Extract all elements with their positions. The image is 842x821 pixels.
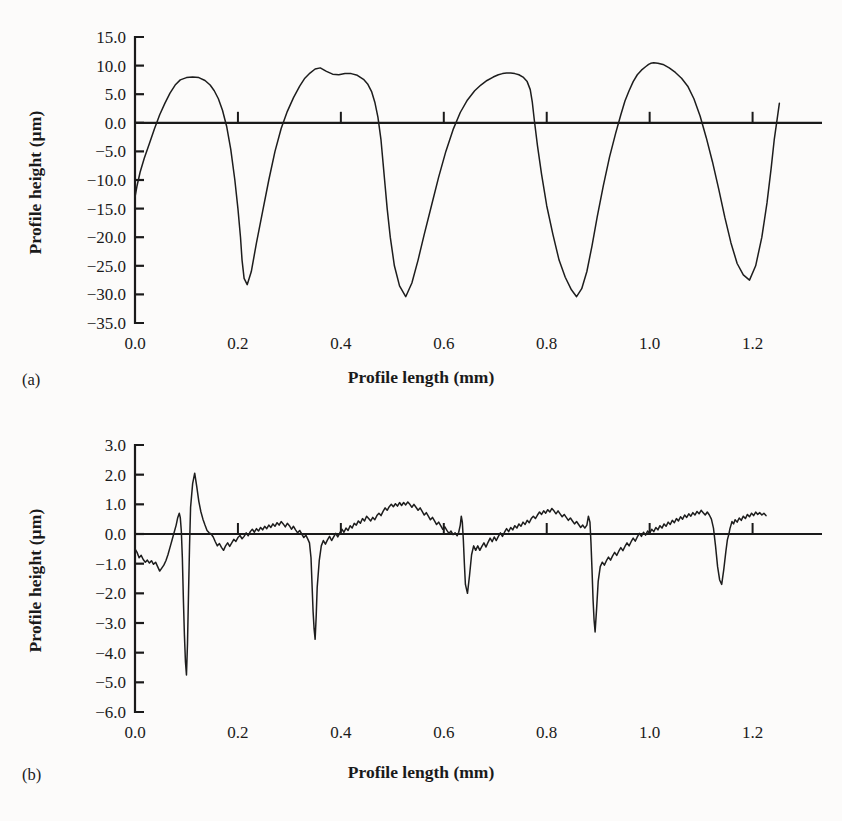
y-tick-label-7: −4.0 [95,644,126,663]
y-tick-label-6: −15.0 [87,200,126,219]
y-tick-label-2: 5.0 [105,85,126,104]
x-tick-label-3: 0.6 [433,334,454,353]
y-tick-label-1: 10.0 [96,57,126,76]
y-tick-labels-b: 3.02.01.00.0−1.0−2.0−3.0−4.0−5.0−6.0 [95,436,126,722]
x-tick-label-0: 0.0 [124,334,145,353]
y-tick-label-4: −1.0 [95,555,126,574]
y-tick-label-3: 0.0 [105,525,126,544]
chart-b-svg: 3.02.01.00.0−1.0−2.0−3.0−4.0−5.0−6.0 0.0… [0,410,842,740]
plot-area-b: 3.02.01.00.0−1.0−2.0−3.0−4.0−5.0−6.0 0.0… [0,410,842,740]
y-tick-label-5: −2.0 [95,584,126,603]
y-tick-label-8: −25.0 [87,257,126,276]
x-tick-label-4: 0.8 [536,723,557,742]
x-tick-label-5: 1.0 [639,334,660,353]
panel-b: Profile height (µm) 3.02.01.00.0−1.0−2.0… [0,410,842,821]
y-tick-label-9: −6.0 [95,703,126,722]
y-tick-label-8: −5.0 [95,673,126,692]
x-tick-label-0: 0.0 [124,723,145,742]
y-tick-label-10: −35.0 [87,314,126,333]
x-tick-label-2: 0.4 [330,723,352,742]
y-tick-label-5: −10.0 [87,171,126,190]
profile-curve-b [135,473,766,675]
plot-area-a: 15.010.05.00.0−5.0−10.0−15.0−20.0−25.0−3… [0,0,842,345]
panel-a: Profile height (µm) 15.010.05.00.0−5.0−1… [0,0,842,410]
x-tick-label-6: 1.2 [742,723,763,742]
y-tick-label-0: 15.0 [96,28,126,47]
x-tick-marks-a [238,112,753,123]
y-tick-label-1: 2.0 [105,466,126,485]
x-tick-label-2: 0.4 [330,334,352,353]
y-tick-label-2: 1.0 [105,495,126,514]
y-tick-label-6: −3.0 [95,614,126,633]
y-tick-marks-a [135,66,144,295]
x-axis-label-a: Profile length (mm) [0,367,842,388]
chart-a-svg: 15.010.05.00.0−5.0−10.0−15.0−20.0−25.0−3… [0,0,842,345]
x-tick-labels-a: 0.00.20.40.60.81.01.2 [124,334,763,353]
x-tick-label-5: 1.0 [639,723,660,742]
y-axis-spine-b [135,445,144,712]
x-tick-label-1: 0.2 [227,723,248,742]
x-tick-label-6: 1.2 [742,334,763,353]
profile-curve-a [135,63,779,297]
x-tick-labels-b: 0.00.20.40.60.81.01.2 [124,723,763,742]
y-tick-label-0: 3.0 [105,436,126,455]
y-tick-labels-a: 15.010.05.00.0−5.0−10.0−15.0−20.0−25.0−3… [87,28,126,333]
y-tick-label-3: 0.0 [105,114,126,133]
y-tick-label-9: −30.0 [87,285,126,304]
x-tick-marks-b [238,523,753,534]
y-tick-label-7: −20.0 [87,228,126,247]
y-tick-marks-b [135,475,144,683]
x-axis-label-b: Profile length (mm) [0,762,842,783]
y-tick-label-4: −5.0 [95,142,126,161]
x-tick-label-4: 0.8 [536,334,557,353]
x-tick-label-1: 0.2 [227,334,248,353]
x-tick-label-3: 0.6 [433,723,454,742]
figure-profile-height: Profile height (µm) 15.010.05.00.0−5.0−1… [0,0,842,821]
